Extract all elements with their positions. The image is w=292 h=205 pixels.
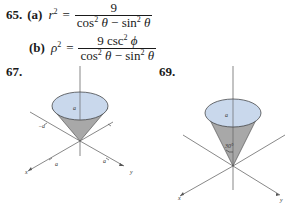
- problem-65-part-b: (b) ρ2 = 9 csc2 ϕ cos2 θ − sin2 θ: [29, 36, 156, 60]
- part-label: (b): [29, 40, 45, 56]
- top-label: a: [225, 112, 228, 118]
- x-axis-label: x: [177, 195, 181, 201]
- lhs: ρ2: [51, 40, 61, 56]
- denominator: cos2 θ − sin2 θ: [75, 16, 153, 30]
- denominator: cos2 θ − sin2 θ: [78, 49, 156, 63]
- numerator: 9: [75, 1, 153, 16]
- equals-sign: =: [62, 7, 69, 23]
- y-axis-label: y: [279, 197, 283, 203]
- equals-sign: =: [66, 40, 73, 56]
- y-tick-label: a: [103, 158, 106, 164]
- neg-x-tick-label: −a: [38, 123, 45, 129]
- lhs: r2: [48, 7, 57, 23]
- figure-69-cone: a 30° x y: [150, 62, 292, 205]
- fraction: 9 cos2 θ − sin2 θ: [75, 1, 153, 30]
- part-label: (a): [27, 7, 42, 23]
- numerator: 9 csc2 ϕ: [78, 34, 156, 49]
- top-label: a: [73, 105, 76, 111]
- x-axis-label: x: [24, 169, 28, 175]
- fraction: 9 csc2 ϕ cos2 θ − sin2 θ: [78, 34, 156, 63]
- figure-67-cone: a −a a a x y: [0, 62, 150, 205]
- x-tick-label: a: [55, 161, 58, 167]
- problem-number: 65.: [6, 7, 22, 23]
- problem-65-part-a: 65. (a) r2 = 9 cos2 θ − sin2 θ: [6, 3, 152, 27]
- y-axis-label: y: [129, 169, 133, 175]
- angle-label: 30°: [224, 143, 234, 149]
